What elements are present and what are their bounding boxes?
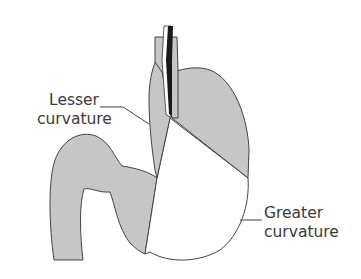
label-line: curvature <box>37 110 99 129</box>
lesser-curvature-label: Lesser curvature <box>37 91 99 129</box>
label-line: Lesser <box>37 91 99 110</box>
label-line: curvature <box>264 223 339 242</box>
label-line: Greater <box>264 204 339 223</box>
greater-curvature-label: Greater curvature <box>264 204 339 242</box>
duodenum <box>50 134 157 260</box>
